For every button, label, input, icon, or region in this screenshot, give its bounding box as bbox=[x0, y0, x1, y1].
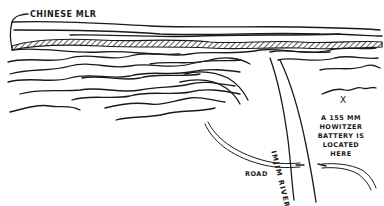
terrain-sketch bbox=[0, 0, 384, 206]
battery-position-marker-icon: X bbox=[340, 96, 347, 105]
howitzer-battery-label: A 155 MM HOWITZER BATTERY IS LOCATED HER… bbox=[316, 114, 366, 159]
hill-contours bbox=[8, 48, 380, 120]
bridge bbox=[296, 164, 326, 166]
sketch-map: CHINESE MLR IMJIM RIVER ROAD X A 155 MM … bbox=[0, 0, 384, 206]
road-label: ROAD bbox=[245, 171, 268, 178]
upper-ridge-lines bbox=[12, 21, 382, 36]
chinese-mlr-label: CHINESE MLR bbox=[30, 11, 96, 19]
